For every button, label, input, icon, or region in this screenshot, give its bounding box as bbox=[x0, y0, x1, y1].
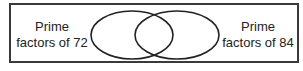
label-line-2: factors of 72 bbox=[16, 35, 88, 51]
label-line-1: Prime bbox=[222, 19, 294, 35]
label-line-2: factors of 84 bbox=[222, 35, 294, 51]
label-prime-factors-72: Prime factors of 72 bbox=[16, 19, 88, 51]
set-ellipse-84 bbox=[135, 11, 219, 59]
label-prime-factors-84: Prime factors of 84 bbox=[222, 19, 294, 51]
set-ellipse-72 bbox=[91, 11, 173, 59]
label-line-1: Prime bbox=[16, 19, 88, 35]
